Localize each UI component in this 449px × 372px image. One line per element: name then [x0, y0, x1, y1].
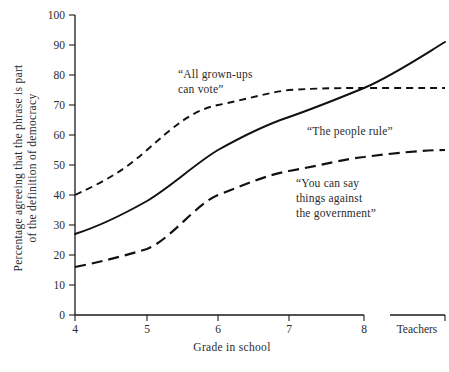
annotation-you-can-say-things-against-the-government: “You can say things against the governme… [296, 177, 376, 220]
x-tick-label-7: 7 [286, 323, 292, 335]
x-tick-label-6: 6 [215, 323, 221, 335]
y-axis-title-line1: Percentage agreeing that the phrase is p… [12, 64, 25, 272]
x-axis: 4 5 6 7 8 Teachers Grade in school [72, 315, 445, 353]
y-tick-label-20: 20 [54, 249, 66, 261]
y-tick-label-60: 60 [54, 129, 66, 141]
x-tick-label-8: 8 [361, 323, 367, 335]
annotation-say-line2: things against [296, 192, 363, 205]
y-axis-title-line2: of the definition of democracy [26, 94, 39, 243]
x-tick-label-4: 4 [72, 323, 78, 335]
annotation-say-line1: “You can say [296, 177, 359, 190]
annotation-rule-line1: “The people rule” [307, 125, 393, 138]
annotation-all-grown-ups-can-vote: “All grown-ups can vote” [178, 68, 253, 95]
series-the-people-rule [75, 42, 445, 234]
y-tick-label-40: 40 [54, 189, 66, 201]
annotation-the-people-rule: “The people rule” [307, 125, 393, 138]
y-tick-label-100: 100 [48, 9, 66, 21]
chart-svg: Percentage agreeing that the phrase is p… [0, 0, 449, 372]
y-tick-label-0: 0 [59, 309, 65, 321]
y-tick-label-80: 80 [54, 69, 66, 81]
y-tick-label-70: 70 [54, 99, 66, 111]
chart-figure: Percentage agreeing that the phrase is p… [0, 0, 449, 372]
annotation-vote-line1: “All grown-ups [178, 68, 253, 81]
x-axis-title: Grade in school [193, 341, 270, 353]
y-axis-title: Percentage agreeing that the phrase is p… [12, 64, 39, 272]
y-axis: 100 90 80 70 60 50 40 30 20 10 0 [48, 9, 75, 321]
x-tick-label-teachers: Teachers [397, 323, 438, 335]
x-tick-label-5: 5 [144, 323, 150, 335]
y-tick-label-10: 10 [54, 279, 66, 291]
annotation-vote-line2: can vote” [178, 83, 224, 95]
y-tick-label-90: 90 [54, 39, 66, 51]
y-tick-label-30: 30 [54, 219, 66, 231]
y-tick-label-50: 50 [54, 159, 66, 171]
annotation-say-line3: the government” [296, 207, 376, 220]
series-you-can-say-things-against-the-government [75, 150, 445, 267]
